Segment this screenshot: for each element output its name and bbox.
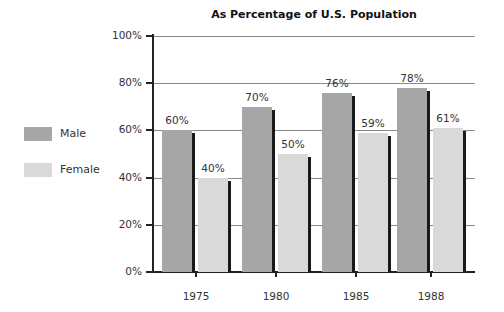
y-tick-label: 40% [96,171,142,183]
bar-shadow [192,133,195,272]
y-tick-label: 0% [96,265,142,277]
x-tick-label: 1975 [171,290,221,302]
x-tick-label: 1988 [406,290,456,302]
data-label: 59% [353,117,393,129]
y-tick-label: 80% [96,76,142,88]
x-tick [355,272,357,277]
bar-male-1988 [397,88,427,272]
data-label: 76% [317,77,357,89]
x-tick [430,272,432,277]
x-tick-label: 1985 [331,290,381,302]
y-tick-label: 60% [96,123,142,135]
data-label: 40% [193,162,233,174]
y-axis [152,34,154,273]
x-tick-label: 1980 [251,290,301,302]
x-tick [275,272,277,277]
bar-male-1975 [162,130,192,272]
bar-male-1985 [322,93,352,272]
bar-shadow [228,181,231,272]
data-label: 78% [392,72,432,84]
bar-female-1985 [358,133,388,272]
bar-shadow [308,157,311,272]
data-label: 50% [273,138,313,150]
data-label: 61% [428,112,468,124]
x-tick [195,272,197,277]
bar-shadow [463,131,466,272]
bar-shadow [272,110,275,272]
bar-shadow [388,136,391,272]
gridline [153,36,475,37]
bar-female-1980 [278,154,308,272]
y-tick-label: 100% [96,29,142,41]
plot-area: 0%20%40%60%80%100%60%40%197570%50%198076… [0,0,504,312]
data-label: 70% [237,91,277,103]
y-tick-label: 20% [96,218,142,230]
bar-female-1988 [433,128,463,272]
bar-male-1980 [242,107,272,272]
data-label: 60% [157,114,197,126]
bar-female-1975 [198,178,228,272]
